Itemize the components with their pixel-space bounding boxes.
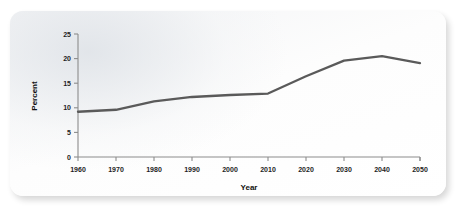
x-tick-label: 1970 [108, 166, 124, 173]
x-axis-ticks: 1960197019801990200020102020203020402050 [70, 157, 428, 173]
x-tick-label: 2000 [222, 166, 238, 173]
x-tick-label: 2050 [412, 166, 428, 173]
x-tick-label: 2040 [374, 166, 390, 173]
y-axis-ticks: 0510152025 [63, 31, 78, 161]
y-tick-label: 25 [63, 31, 71, 38]
y-tick-label: 10 [63, 104, 71, 111]
x-tick-label: 1990 [184, 166, 200, 173]
y-tick-label: 15 [63, 80, 71, 87]
data-series-line [78, 56, 420, 112]
x-tick-label: 1960 [70, 166, 86, 173]
line-chart-plot: 0510152025 19601970198019902000201020202… [0, 0, 461, 215]
x-tick-label: 2020 [298, 166, 314, 173]
x-tick-label: 2010 [260, 166, 276, 173]
x-tick-label: 2030 [336, 166, 352, 173]
y-tick-label: 5 [67, 129, 71, 136]
x-axis-title: Year [241, 183, 258, 192]
x-tick-label: 1980 [146, 166, 162, 173]
y-tick-label: 20 [63, 55, 71, 62]
y-axis-title: Percent [30, 81, 39, 111]
chart-figure: 0510152025 19601970198019902000201020202… [0, 0, 461, 215]
y-tick-label: 0 [67, 154, 71, 161]
